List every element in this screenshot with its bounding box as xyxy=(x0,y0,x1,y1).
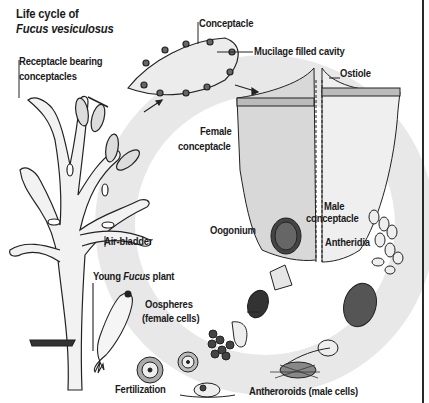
label-oospheres-line2: (female cells) xyxy=(142,312,199,324)
label-male-line1: Male xyxy=(324,200,344,212)
label-fertilization: Fertilization xyxy=(115,383,166,395)
young-suffix: plant xyxy=(150,270,174,282)
young-prefix: Young xyxy=(93,270,123,282)
diagram-title-line1: Life cycle of xyxy=(16,7,79,22)
label-male-line2: conceptacle xyxy=(306,212,359,224)
diagram-title-line2: Fucus vesiculosus xyxy=(16,22,114,37)
frame-border xyxy=(422,0,424,403)
label-young-fucus-plant: Young Fucus plant xyxy=(93,270,174,282)
fucus-life-cycle-diagram: Life cycle of Fucus vesiculosus Receptac… xyxy=(0,0,429,403)
label-receptacle-line2: conceptacles xyxy=(19,70,77,82)
label-oospheres-line1: Oospheres xyxy=(145,298,193,310)
label-conceptacle: Conceptacle xyxy=(199,17,253,29)
label-air-bladder: Air-bladder xyxy=(104,235,152,247)
label-mucilage: Mucilage filled cavity xyxy=(254,45,345,57)
label-female-line1: Female xyxy=(200,125,232,137)
label-female-line2: conceptacle xyxy=(178,140,231,152)
label-receptacle-line1: Receptacle bearing xyxy=(19,55,102,67)
label-antheridia: Antheridia xyxy=(325,236,370,248)
young-italic: Fucus xyxy=(123,270,150,282)
label-oogonium: Oogonium xyxy=(210,224,256,236)
label-antherozoids: Antheroroids (male cells) xyxy=(249,385,358,397)
label-ostiole: Ostiole xyxy=(340,67,371,79)
